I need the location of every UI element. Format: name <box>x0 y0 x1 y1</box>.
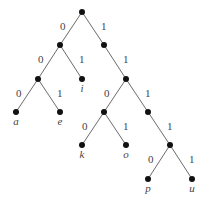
leaf-label: u <box>189 182 195 194</box>
leaf-label: a <box>13 115 19 127</box>
edge-bit-label: 0 <box>16 87 22 99</box>
leaf-label: k <box>80 148 86 160</box>
tree-node <box>145 109 151 115</box>
tree-node <box>101 42 107 48</box>
leaf-label: e <box>58 115 63 127</box>
edge-bit-label: 1 <box>167 120 173 132</box>
edge-bit-label: 0 <box>104 87 110 99</box>
leaf-label: o <box>123 148 129 160</box>
edge-bit-label: 1 <box>189 153 195 165</box>
edge-bit-label: 1 <box>145 87 151 99</box>
tree-node <box>35 76 41 82</box>
edge-bit-label: 1 <box>57 87 63 99</box>
tree-node <box>57 42 63 48</box>
edge-bit-label: 0 <box>82 120 88 132</box>
tree-node <box>79 9 85 15</box>
tree-node <box>123 76 129 82</box>
tree-node <box>167 142 173 148</box>
edge-bit-label: 1 <box>101 20 107 32</box>
edge-bit-label: 0 <box>148 153 154 165</box>
binary-code-tree: 01011010101101 iaekopu <box>0 0 205 204</box>
tree-node <box>101 109 107 115</box>
edge-bit-label: 1 <box>123 120 129 132</box>
edge-bit-label: 1 <box>79 53 85 65</box>
leaf-label: p <box>144 182 151 194</box>
edge-bit-label: 1 <box>123 53 129 65</box>
edge-bit-label: 0 <box>38 53 44 65</box>
edge-bit-label: 0 <box>60 20 66 32</box>
leaf-labels: iaekopu <box>13 82 195 194</box>
leaf-label: i <box>80 82 83 94</box>
